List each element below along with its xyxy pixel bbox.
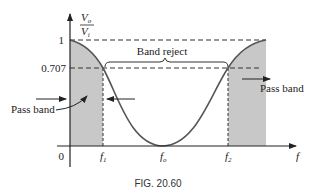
- origin-label: 0: [59, 150, 65, 162]
- band-reject-diagram: Vo Vi 1 0.707 0 f1 fo f2 f Band reject P…: [0, 0, 316, 192]
- y-tick-0707: 0.707: [41, 62, 66, 74]
- x-axis-label: f: [296, 150, 301, 162]
- x-tick-f1: f1: [100, 150, 107, 164]
- y-label-numerator: Vo: [81, 11, 92, 25]
- figure-caption: FIG. 20.60: [134, 178, 182, 189]
- y-tick-1: 1: [59, 34, 65, 46]
- pass-band-left-shade: [70, 40, 103, 146]
- band-reject-label: Band reject: [137, 45, 187, 57]
- band-reject-brace: [105, 58, 228, 67]
- y-label-denominator: Vi: [81, 25, 90, 39]
- x-tick-fo: fo: [160, 150, 167, 164]
- pass-band-right-label: Pass band: [260, 82, 304, 94]
- pass-band-left-label: Pass band: [11, 103, 55, 115]
- x-tick-f2: f2: [225, 150, 232, 164]
